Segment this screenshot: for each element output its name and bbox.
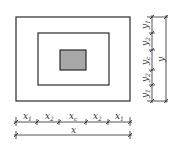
label-y1-top: y1 xyxy=(140,20,151,30)
label-yc: yc xyxy=(140,56,151,66)
dimension-diagram: x1 x2 xc x2 x1 x y1 y2 yc y2 y1 y xyxy=(0,0,177,151)
label-x2-right: x2 xyxy=(93,111,102,122)
label-y2-bottom: y2 xyxy=(140,73,151,83)
label-y2-top: y2 xyxy=(140,37,151,47)
label-xc: xc xyxy=(69,111,78,122)
label-x2-left: x2 xyxy=(45,111,54,122)
label-x1-right: x1 xyxy=(115,111,124,122)
label-x-total: x xyxy=(71,125,76,135)
label-y1-bottom: y1 xyxy=(140,89,151,99)
label-y-total: y xyxy=(156,56,166,63)
label-x1-left: x1 xyxy=(23,111,32,122)
center-shaded-rectangle xyxy=(60,50,86,70)
